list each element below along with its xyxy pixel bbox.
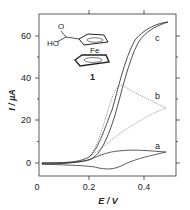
x-axis-label: E / V — [98, 196, 119, 206]
y-tick-60: 60 — [21, 31, 31, 41]
x-tick-0.4: 0.4 — [138, 182, 151, 192]
x-tick-0: 0 — [34, 182, 39, 192]
x-tick-0.2: 0.2 — [83, 182, 96, 192]
iron-label: Fe — [90, 46, 100, 55]
y-axis-label: I / µA — [7, 89, 17, 111]
oxygen-label: O — [58, 22, 64, 31]
cyclic-voltammogram-chart: 0 20 40 60 0 0.2 0.4 E / V I / µA c b a … — [0, 0, 190, 210]
hydroxyl-label: HO — [47, 39, 59, 48]
series-label-c: c — [155, 33, 160, 43]
compound-number: 1 — [90, 72, 95, 82]
curve-c — [42, 22, 168, 164]
y-tick-40: 40 — [21, 73, 31, 83]
y-tick-20: 20 — [21, 115, 31, 125]
y-tick-0: 0 — [26, 158, 31, 168]
series-label-a: a — [155, 141, 160, 151]
curve-a — [42, 150, 166, 169]
curve-b — [42, 85, 166, 163]
ferrocene-structure: O HO Fe 1 — [47, 22, 109, 82]
series-label-b: b — [155, 91, 160, 101]
